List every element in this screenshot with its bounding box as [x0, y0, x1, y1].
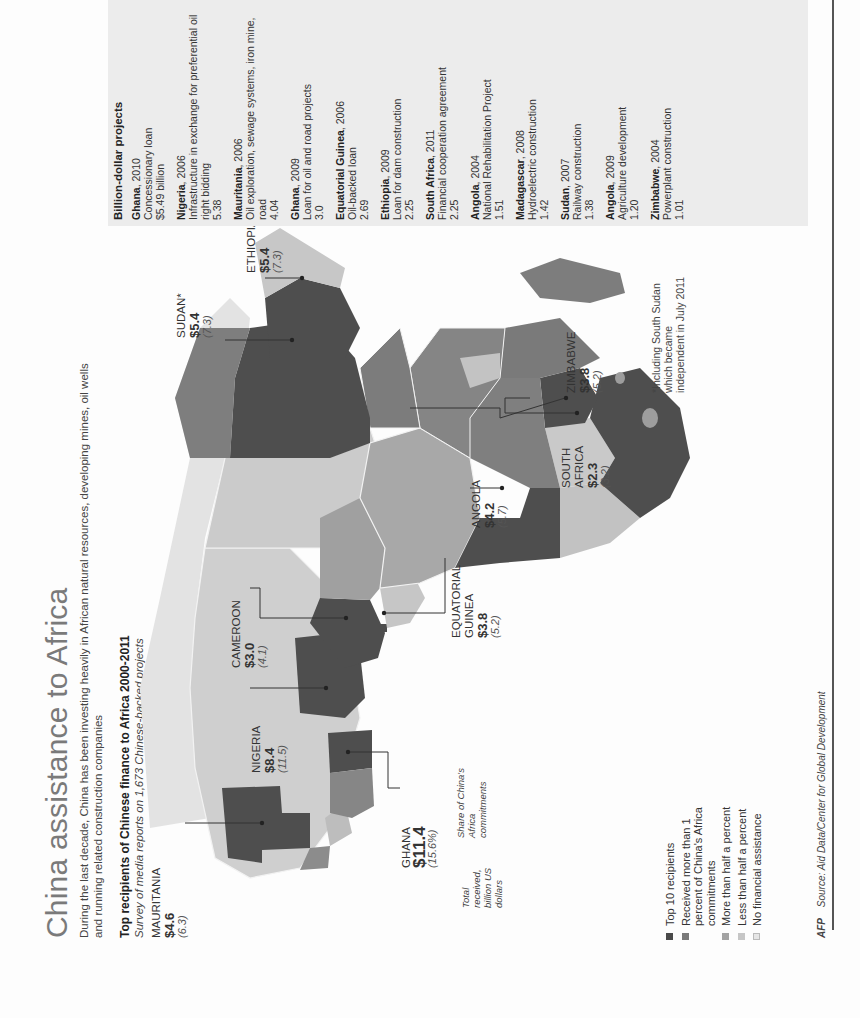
legend-label: More than half a percent — [720, 807, 733, 926]
project-country: Equatorial Guinea — [334, 130, 346, 220]
country-equatorial-guinea — [380, 624, 387, 632]
label-mauritania: Mauritania $4.6 (6.3) — [150, 868, 189, 938]
project-year: , 2010 — [130, 158, 142, 187]
project-value: 4.04 — [268, 0, 280, 220]
project-desc: Agriculture development — [616, 0, 628, 220]
project-desc: National Rehabilitation Project — [481, 0, 493, 220]
legend-label: No financial assistance — [751, 813, 764, 926]
amount: $8.4 — [263, 726, 276, 773]
project-item: Angola, 2009Agriculture development1.20 — [604, 0, 640, 220]
bottom-rule — [832, 0, 834, 930]
country-lesotho — [642, 408, 658, 428]
project-year: , 2008 — [514, 130, 526, 159]
project-year: , 2006 — [175, 155, 187, 184]
legend-item-over-half: More than half a percent — [720, 680, 733, 940]
amount: $5.4 — [258, 219, 271, 273]
project-item: Ethiopia, 2009Loan for dam construction2… — [379, 0, 415, 220]
project-item: Mauritania, 2006Oil exploration, sewage … — [232, 0, 280, 220]
project-item: South Africa, 2011Financial cooperation … — [424, 0, 460, 220]
country-cote-divoire — [330, 768, 374, 818]
footnote: *Including South Sudan which became inde… — [650, 273, 686, 393]
country-name: Equatorial Guinea — [450, 558, 476, 638]
project-year: , 2009 — [289, 158, 301, 187]
project-year: , 2011 — [424, 130, 436, 158]
project-item: Ghana, 2009Loan for oil and road project… — [289, 0, 325, 220]
billion-dollar-projects-panel: Billion-dollar projects Ghana, 2010Conce… — [108, 0, 808, 226]
project-item: Sudan, 2007Railway construction1.38 — [559, 0, 595, 220]
country-kenya — [360, 328, 420, 428]
project-value: 1.01 — [673, 0, 685, 220]
project-desc: Oil exploration, sewage systems, iron mi… — [244, 0, 268, 220]
project-year: , 2004 — [649, 139, 661, 168]
project-country: Sudan — [559, 188, 571, 220]
project-desc: Powerplant construction — [661, 0, 673, 220]
share: (5.2) — [591, 332, 604, 393]
project-desc: Financial cooperation agreement — [436, 0, 448, 220]
legend-swatch — [738, 933, 745, 940]
project-value: 1.20 — [628, 0, 640, 220]
share: (7.3) — [201, 293, 214, 338]
panel-heading: Billion-dollar projects — [112, 0, 124, 220]
share: (7.3) — [271, 219, 284, 273]
project-value: 1.42 — [538, 0, 550, 220]
project-value: 2.69 — [358, 0, 370, 220]
legend-label: Received more than 1 percent of China's … — [680, 796, 718, 926]
country-ethiopia — [265, 278, 360, 358]
amount: $3.0 — [243, 600, 256, 668]
amount: $4.6 — [163, 868, 176, 938]
project-year: , 2009 — [379, 149, 391, 178]
project-year: , 2004 — [469, 155, 481, 184]
label-ethiopia: Ethiopia $5.4 (7.3) — [245, 219, 284, 273]
label-zimbabwe: Zimbabwe $3.8 (5.2) — [565, 332, 604, 393]
amount: $4.2 — [483, 480, 496, 528]
project-country: Ethiopia — [379, 179, 391, 220]
share: (5.2) — [489, 558, 502, 638]
amount: $3.8 — [476, 558, 489, 638]
project-desc: Loan for dam construction — [391, 0, 403, 220]
legend: Top 10 recipients Received more than 1 p… — [664, 680, 767, 940]
legend-swatch — [722, 933, 729, 940]
label-cameroon: Cameroon $3.0 (4.1) — [230, 600, 269, 668]
project-item: Zimbabwe, 2004Powerplant construction1.0… — [649, 0, 685, 220]
project-country: Nigeria — [175, 184, 187, 220]
project-desc: Railway construction — [571, 0, 583, 220]
legend-item-over1pct: Received more than 1 percent of China's … — [680, 680, 718, 940]
project-value: $5.49 billion — [154, 0, 166, 220]
share: (5.7) — [496, 480, 509, 528]
legend-swatch — [666, 933, 673, 940]
source-text: Source: Aid Data/Center for Global Devel… — [816, 691, 827, 907]
source-line: AFP Source: Aid Data/Center for Global D… — [816, 691, 827, 938]
legend-item-under-half: Less than half a percent — [736, 680, 749, 940]
label-ghana: Ghana $11.4 (15.6%) — [400, 826, 439, 868]
project-year: , 2006 — [232, 138, 244, 167]
project-country: Angola — [604, 184, 616, 220]
label-sudan: Sudan* $5.4 (7.3) — [175, 293, 214, 338]
label-angola: Angola $4.2 (5.7) — [470, 480, 509, 528]
project-year: , 2006 — [334, 101, 346, 130]
country-swaziland — [615, 372, 625, 384]
amount: $2.3 — [586, 433, 599, 488]
project-country: Zimbabwe — [649, 169, 661, 220]
project-country: Mauritania — [232, 167, 244, 220]
project-item: Angola, 2004National Rehabilitation Proj… — [469, 0, 505, 220]
afp-logo: AFP — [816, 918, 827, 938]
project-value: 2.25 — [403, 0, 415, 220]
project-desc: Oil-backed loan — [346, 0, 358, 220]
share: (3.2) — [599, 433, 612, 488]
share: (11.5) — [276, 726, 289, 773]
project-desc: Infrastructure in exchange for preferent… — [187, 0, 211, 220]
project-country: Madagascar — [514, 159, 526, 220]
project-item: Nigeria, 2006Infrastructure in exchange … — [175, 0, 223, 220]
share: (6.3) — [176, 868, 189, 938]
project-value: 1.38 — [583, 0, 595, 220]
country-name: South Africa — [560, 433, 586, 488]
share: (15.6%) — [426, 826, 439, 868]
amount: $5.4 — [188, 293, 201, 338]
project-desc: Loan for oil and road projects — [301, 0, 313, 220]
project-item: Madagascar, 2008Hydroelectric constructi… — [514, 0, 550, 220]
share: (4.1) — [256, 600, 269, 668]
project-country: Ghana — [130, 187, 142, 220]
amount: $11.4 — [413, 826, 426, 868]
project-year: , 2009 — [604, 155, 616, 184]
project-country: Angola — [469, 184, 481, 220]
